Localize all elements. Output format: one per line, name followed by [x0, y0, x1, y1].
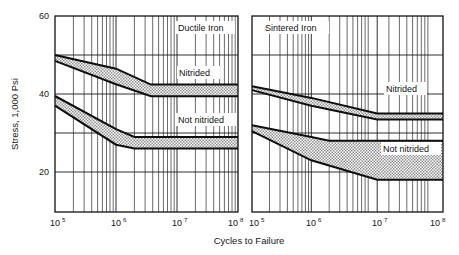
left-label-not-nitrided: Not nitrided	[176, 113, 236, 126]
figure-container: Stress, 1,000 Psi 60 40 20	[0, 0, 459, 255]
x-tick-1e5-left-exponent: 5	[62, 216, 66, 223]
x-tick-1e8-left-mantissa: 10	[228, 218, 238, 228]
x-tick-1e6-left-mantissa: 10	[111, 218, 121, 228]
x-tick-1e6-left-exponent: 6	[123, 216, 127, 223]
x-tick-1e7-right-exponent: 7	[384, 216, 388, 223]
right-panel-title: Sintered Iron	[263, 21, 329, 34]
x-tick-1e7-left-mantissa: 10	[172, 218, 182, 228]
y-tick-60: 60	[39, 11, 49, 21]
fatigue-chart-svg: Stress, 1,000 Psi 60 40 20	[0, 0, 459, 255]
x-tick-1e7-right-mantissa: 10	[372, 218, 382, 228]
y-axis-label: Stress, 1,000 Psi	[9, 78, 20, 150]
left-label-nitrided-text: Nitrided	[179, 68, 210, 78]
y-tick-40: 40	[39, 89, 49, 99]
left-label-not-nitrided-text: Not nitrided	[178, 115, 224, 125]
y-axis-label-text: Stress, 1,000 Psi	[9, 78, 20, 150]
x-tick-1e5-right-exponent: 5	[261, 216, 265, 223]
y-tick-20: 20	[39, 167, 49, 177]
chart-background	[0, 0, 459, 255]
x-tick-1e7-left-exponent: 7	[184, 216, 188, 223]
x-tick-1e5-left-mantissa: 10	[50, 218, 60, 228]
x-tick-1e6-right-exponent: 6	[318, 216, 322, 223]
right-label-not-nitrided-text: Not nitrided	[383, 144, 429, 154]
left-panel-title-text: Ductile Iron	[178, 23, 224, 33]
x-tick-1e8-right-mantissa: 10	[430, 218, 440, 228]
x-tick-1e5-right-mantissa: 10	[249, 218, 259, 228]
x-tick-1e8-right-exponent: 8	[442, 216, 446, 223]
x-tick-1e8-left-exponent: 8	[240, 216, 244, 223]
right-label-not-nitrided: Not nitrided	[381, 142, 441, 155]
right-label-nitrided-text: Nitrided	[386, 84, 417, 94]
x-axis-label: Cycles to Failure	[214, 235, 285, 246]
left-panel-title: Ductile Iron	[176, 21, 235, 34]
right-panel-title-text: Sintered Iron	[265, 23, 317, 33]
left-label-nitrided: Nitrided	[177, 66, 220, 79]
x-tick-1e6-right-mantissa: 10	[306, 218, 316, 228]
right-label-nitrided: Nitrided	[384, 82, 427, 95]
